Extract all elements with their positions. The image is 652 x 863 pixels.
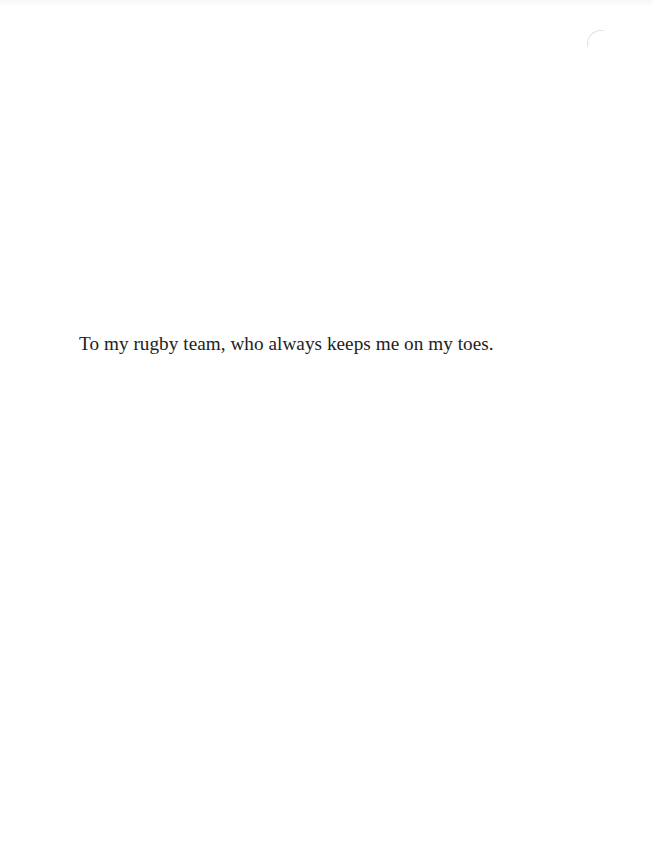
document-page: To my rugby team, who always keeps me on… — [0, 0, 652, 863]
scan-mark-artifact — [587, 30, 604, 47]
scan-edge-artifact — [0, 0, 652, 6]
dedication-text: To my rugby team, who always keeps me on… — [79, 333, 494, 355]
